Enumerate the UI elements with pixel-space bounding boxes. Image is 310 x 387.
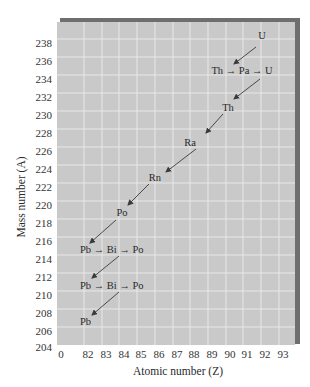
y-tick: 226: [36, 145, 53, 157]
x-tick: 87: [172, 348, 184, 360]
decay-series-chart: 238 236 234 232 230 228 226 224 222 220 …: [0, 0, 310, 387]
y-tick: 222: [36, 181, 53, 193]
y-tick: 238: [36, 37, 53, 49]
x-tick: 90: [225, 348, 237, 360]
nuclide-label-pb210: Pb → Bi → Po: [80, 280, 144, 291]
y-axis-ticks: 238 236 234 232 230 228 226 224 222 220 …: [36, 37, 53, 353]
y-tick: 216: [36, 235, 53, 247]
x-tick: 0: [58, 348, 64, 360]
x-tick: 86: [154, 348, 166, 360]
nuclide-label-pb214: Pb → Bi → Po: [80, 244, 144, 255]
x-tick: 83: [101, 348, 113, 360]
nuclide-label-ra226: Ra: [184, 137, 196, 148]
y-tick: 206: [36, 325, 53, 337]
x-tick: 91: [242, 348, 253, 360]
nuclide-label-u238: U: [258, 30, 266, 41]
nuclide-label-rn222: Rn: [149, 172, 162, 183]
y-tick: 210: [36, 289, 53, 301]
y-tick: 236: [36, 55, 53, 67]
x-tick: 88: [189, 348, 201, 360]
y-tick: 232: [36, 91, 53, 103]
y-tick: 234: [36, 73, 53, 85]
x-tick: 82: [83, 348, 94, 360]
y-axis-title: Mass number (A): [15, 156, 28, 237]
y-tick: 218: [36, 217, 53, 229]
nuclide-label-th234: Th → Pa → U: [211, 65, 273, 76]
x-tick: 93: [278, 348, 290, 360]
x-tick: 89: [207, 348, 219, 360]
nuclide-label-th230: Th: [222, 102, 234, 113]
y-tick: 204: [36, 341, 53, 353]
x-tick: 92: [260, 348, 271, 360]
x-axis-title: Atomic number (Z): [133, 365, 223, 378]
y-tick: 224: [36, 163, 53, 175]
nuclide-label-pb206: Pb: [80, 316, 91, 327]
nuclide-label-po218: Po: [116, 207, 127, 218]
x-tick: 85: [136, 348, 148, 360]
x-axis-ticks: 0 82 83 84 85 86 87 88 89 90 91 92 93: [58, 348, 289, 360]
y-tick: 208: [36, 307, 53, 319]
x-tick: 84: [119, 348, 131, 360]
y-tick: 212: [36, 271, 53, 283]
y-tick: 214: [36, 253, 53, 265]
y-tick: 230: [36, 109, 53, 121]
y-tick: 220: [36, 199, 53, 211]
y-tick: 228: [36, 127, 53, 139]
